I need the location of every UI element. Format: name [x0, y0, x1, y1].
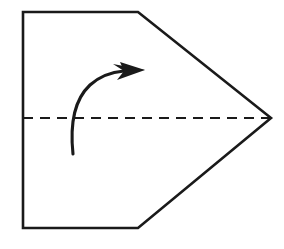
diagram-canvas	[0, 0, 284, 249]
origami-fold-diagram: Origami valley fold step diagram A penta…	[0, 0, 284, 249]
